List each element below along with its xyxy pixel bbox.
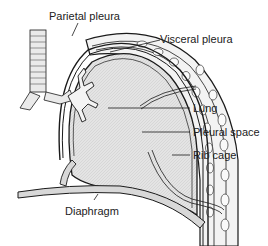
label-parietal-pleura: Parietal pleura	[49, 11, 120, 22]
label-diaphragm: Diaphragm	[65, 206, 119, 217]
lung-pleura-diagram: Parietal pleura Visceral pleura Lung Ple…	[0, 0, 268, 246]
trachea	[20, 30, 74, 110]
label-lung: Lung	[193, 103, 217, 114]
label-rib-cage: Rib cage	[193, 150, 236, 161]
label-visceral-pleura: Visceral pleura	[160, 34, 233, 45]
label-pleural-space: Pleural space	[193, 127, 260, 138]
